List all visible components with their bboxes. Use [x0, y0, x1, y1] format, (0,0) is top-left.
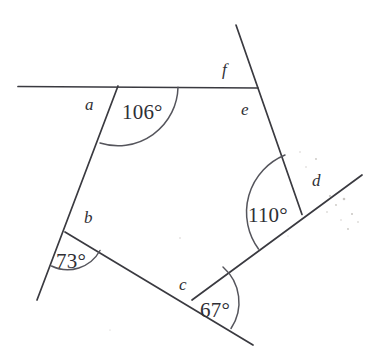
angle-label-c: c	[179, 276, 187, 293]
angle-label-b: b	[84, 209, 93, 226]
angle-label-f: f	[222, 61, 227, 78]
segment-right-diagonal	[192, 175, 362, 300]
paper-speckles	[109, 151, 358, 330]
angle-measure-73: 73°	[56, 251, 86, 272]
angle-label-a: a	[85, 96, 94, 113]
angle-label-e: e	[241, 101, 249, 118]
segment-right-side	[236, 25, 302, 215]
angle-measure-110: 110°	[248, 205, 288, 226]
geometry-diagram: 106° 110° 73° 67° a b c d e f	[0, 0, 368, 355]
segment-top-horizontal	[18, 87, 258, 89]
angle-measure-67: 67°	[200, 300, 230, 321]
segment-bottom-side	[65, 232, 253, 345]
angle-measure-106: 106°	[122, 102, 163, 123]
angle-label-d: d	[312, 172, 321, 189]
